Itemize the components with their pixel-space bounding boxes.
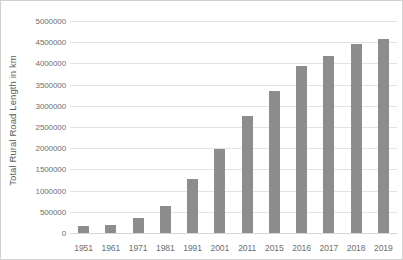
bar-slot bbox=[234, 21, 261, 233]
x-axis-tick-slot: 1971 bbox=[125, 237, 152, 255]
x-axis-tick-label: 1971 bbox=[129, 243, 148, 253]
x-axis-tick-slot: 2017 bbox=[315, 237, 342, 255]
bar-slot bbox=[70, 21, 97, 233]
y-axis-tick-label: 5000000 bbox=[36, 17, 66, 26]
y-axis-title-label: Total Rural Road Length in km bbox=[7, 55, 18, 186]
y-axis-tick-label: 3500000 bbox=[36, 80, 66, 89]
x-axis-tick-slot: 2018 bbox=[343, 237, 370, 255]
y-axis-tick-label: 2500000 bbox=[36, 123, 66, 132]
plot-area bbox=[70, 21, 397, 233]
bar-slot bbox=[179, 21, 206, 233]
y-axis-tick-label: 500000 bbox=[40, 207, 66, 216]
bar bbox=[105, 225, 116, 233]
y-axis-tick-label: 1000000 bbox=[36, 186, 66, 195]
x-axis-tick-slot: 2016 bbox=[288, 237, 315, 255]
y-axis-tick-label: 0 bbox=[62, 229, 66, 238]
x-axis-tick-label: 1981 bbox=[156, 243, 175, 253]
x-axis-tick-slot: 2001 bbox=[206, 237, 233, 255]
x-axis-tick-label: 1991 bbox=[183, 243, 202, 253]
bar-slot bbox=[288, 21, 315, 233]
x-axis-tick-slot: 1991 bbox=[179, 237, 206, 255]
bar bbox=[214, 149, 225, 233]
bar-slot bbox=[315, 21, 342, 233]
x-axis-tick-slot: 1961 bbox=[97, 237, 124, 255]
bar bbox=[160, 206, 171, 233]
x-axis-tick-slot: 2011 bbox=[234, 237, 261, 255]
y-axis-tick-label: 4000000 bbox=[36, 59, 66, 68]
x-axis-tick-label: 2017 bbox=[320, 243, 339, 253]
bar bbox=[351, 44, 362, 233]
bar bbox=[323, 56, 334, 233]
x-axis-tick-label: 2015 bbox=[265, 243, 284, 253]
x-axis-tick-label: 2001 bbox=[211, 243, 230, 253]
bar bbox=[187, 179, 198, 233]
bar bbox=[378, 39, 389, 233]
bar bbox=[78, 226, 89, 233]
bar-slot bbox=[261, 21, 288, 233]
bar-chart-figure: Total Rural Road Length in km 0500000100… bbox=[0, 0, 403, 260]
x-axis-tick-slot: 2015 bbox=[261, 237, 288, 255]
x-axis-tick-slot: 1951 bbox=[70, 237, 97, 255]
y-axis-tick-label-group: 0500000100000015000002000000250000030000… bbox=[23, 15, 69, 239]
x-axis-tick-slot: 2019 bbox=[370, 237, 397, 255]
y-axis-tick-label: 1500000 bbox=[36, 165, 66, 174]
x-axis-tick-label: 1961 bbox=[102, 243, 121, 253]
x-axis-tick-label: 2018 bbox=[347, 243, 366, 253]
x-axis-tick-label-group: 1951196119711981199120012011201520162017… bbox=[70, 237, 397, 255]
bar-slot bbox=[343, 21, 370, 233]
x-axis-tick-label: 2016 bbox=[292, 243, 311, 253]
bars-layer bbox=[70, 21, 397, 233]
bar-slot bbox=[152, 21, 179, 233]
bar-slot bbox=[125, 21, 152, 233]
bar bbox=[133, 218, 144, 233]
bar-slot bbox=[206, 21, 233, 233]
bar-slot bbox=[97, 21, 124, 233]
y-axis-title: Total Rural Road Length in km bbox=[1, 1, 23, 239]
bar bbox=[296, 66, 307, 233]
x-axis-tick-label: 2011 bbox=[238, 243, 256, 253]
bar-slot bbox=[370, 21, 397, 233]
y-axis-tick-label: 4500000 bbox=[36, 38, 66, 47]
x-axis-tick-slot: 1981 bbox=[152, 237, 179, 255]
x-axis-tick-label: 1951 bbox=[74, 243, 93, 253]
bar bbox=[269, 91, 280, 233]
y-axis-tick-label: 3000000 bbox=[36, 101, 66, 110]
bar bbox=[242, 116, 253, 233]
x-axis-tick-label: 2019 bbox=[374, 243, 393, 253]
y-axis-tick-label: 2000000 bbox=[36, 144, 66, 153]
gridline bbox=[70, 233, 397, 234]
